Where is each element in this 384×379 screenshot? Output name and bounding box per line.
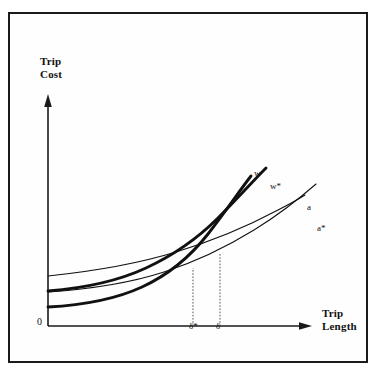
x-axis-title: Trip Length	[322, 307, 357, 333]
curve-a	[48, 195, 305, 276]
figure-root: Trip Cost Trip Length 0 w w* a a* δ* δ	[0, 0, 384, 379]
curve-label-w-star: w*	[270, 181, 281, 191]
curve-label-a-star: a*	[317, 223, 326, 233]
droplines	[193, 253, 220, 326]
x-tick-label-delta-star: δ*	[189, 321, 198, 331]
curve-label-a: a	[307, 202, 311, 212]
curve-label-w: w	[254, 168, 261, 178]
x-axis	[48, 322, 312, 330]
arrow-up-icon	[44, 94, 52, 107]
curve-a-star	[48, 184, 316, 292]
x-tick-label-delta: δ	[216, 321, 220, 331]
arrow-right-icon	[299, 322, 312, 330]
origin-label: 0	[37, 316, 42, 327]
y-axis-title: Trip Cost	[40, 55, 62, 81]
